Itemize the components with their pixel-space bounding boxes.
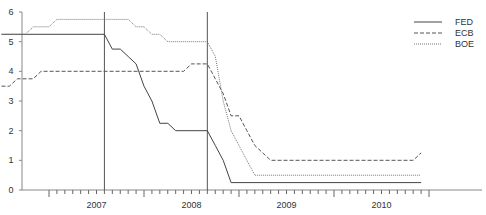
- x-axis: 2007200820092010: [22, 190, 482, 210]
- y-axis: 0123456: [8, 7, 22, 195]
- legend: FEDECBBOE: [414, 17, 474, 49]
- x-tick-label: 2009: [276, 200, 296, 210]
- legend-label-ecb: ECB: [455, 28, 474, 38]
- y-tick-label: 6: [8, 7, 13, 17]
- legend-label-fed: FED: [455, 17, 474, 27]
- series-ecb: [2, 64, 422, 160]
- y-tick-label: 3: [8, 96, 13, 106]
- y-tick-label: 2: [8, 126, 13, 136]
- y-tick-label: 4: [8, 66, 13, 76]
- y-tick-label: 1: [8, 155, 13, 165]
- y-tick-label: 5: [8, 37, 13, 47]
- x-tick-label: 2008: [181, 200, 201, 210]
- legend-label-boe: BOE: [455, 39, 474, 49]
- plot-lines: [2, 19, 422, 182]
- x-tick-label: 2007: [86, 200, 106, 210]
- series-boe: [2, 19, 422, 175]
- interest-rate-chart: 0123456 2007200820092010 FEDECBBOE: [0, 0, 486, 215]
- vertical-markers: [104, 12, 207, 190]
- y-tick-label: 0: [8, 185, 13, 195]
- x-tick-label: 2010: [371, 200, 391, 210]
